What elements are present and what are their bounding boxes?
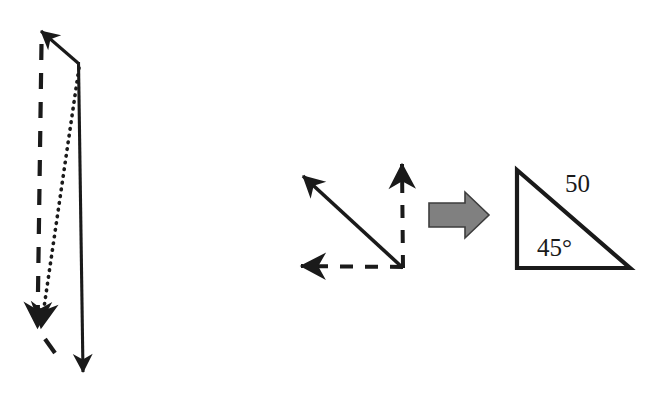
solid-upleft-arrow: [41, 31, 78, 63]
figure-canvas: 50 45°: [0, 0, 655, 401]
dashed-tail-segment: [45, 339, 55, 353]
gray-block-arrow-right: [429, 192, 489, 238]
hypotenuse-label: 50: [565, 170, 590, 197]
dotted-resultant-arrow: [41, 68, 79, 328]
solid-down-arrow: [79, 62, 84, 372]
angle-label: 45°: [537, 234, 572, 261]
dashed-downleft-arrow: [38, 44, 42, 328]
left-vector-diagram: [38, 31, 84, 372]
solid-diagonal-arrow: [303, 176, 403, 268]
gray-arrow-shape: [429, 192, 489, 238]
right-triangle-shape: 50 45°: [517, 170, 630, 268]
dashed-vertical-arrow: [402, 164, 403, 268]
dashed-horizontal-arrow: [301, 266, 403, 267]
figure-root: 50 45°: [0, 0, 655, 401]
middle-vector-diagram: [301, 164, 403, 268]
